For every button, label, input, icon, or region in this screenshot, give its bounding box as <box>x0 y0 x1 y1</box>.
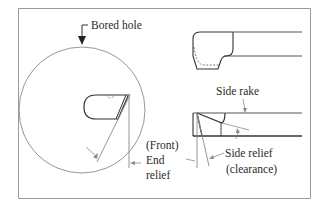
end-relief-line <box>97 95 130 162</box>
tool-hidden-line <box>194 47 219 65</box>
tool-end-profile <box>84 95 130 119</box>
front-label: (Front) <box>146 139 179 152</box>
front-arrow <box>186 159 195 161</box>
side-view <box>186 113 302 168</box>
side-relief-label: Side relief <box>225 147 273 159</box>
relief-arrow <box>86 147 96 156</box>
bored-hole-circle <box>19 47 145 173</box>
arrow-left-icon <box>130 161 135 165</box>
top-view <box>193 32 302 69</box>
arrow-down-icon <box>243 108 247 113</box>
end-view: Bored hole <box>19 19 145 173</box>
side-relief-line <box>197 113 209 166</box>
side-rake-label: Side rake <box>216 85 259 97</box>
clearance-label: (clearance) <box>226 163 277 176</box>
rake-face-line <box>197 113 225 123</box>
arrow-down-icon <box>78 36 86 45</box>
end-label: End <box>146 154 165 166</box>
arrow-up-icon <box>236 128 240 133</box>
rake-angle-line <box>222 123 249 130</box>
diagram-canvas: Bored hole (Front) End relief Side rake <box>0 0 329 212</box>
arrow-left-icon <box>209 155 214 159</box>
relief-label: relief <box>146 169 170 181</box>
tool-head-outline <box>193 32 233 69</box>
bored-hole-label: Bored hole <box>91 19 142 31</box>
